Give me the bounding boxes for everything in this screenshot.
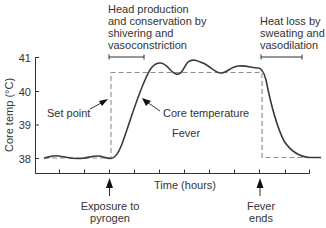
- fever-ends-label-line-2: ends: [249, 212, 273, 224]
- fever-ends-arrow: [257, 178, 264, 196]
- y-tick-39: 39: [19, 119, 31, 131]
- exposure-label-line-2: pyrogen: [90, 212, 130, 224]
- exposure-label-line-1: Exposure to: [81, 200, 140, 212]
- y-axis: [36, 57, 40, 174]
- set-point-arrow: [90, 99, 108, 109]
- heat-loss-annotation: Heat loss by sweating and vasodilation: [260, 15, 325, 60]
- heat-production-line-3: shivering and: [108, 27, 173, 39]
- heat-production-line-4: vasoconstriction: [108, 39, 187, 51]
- y-axis-title: Core temp (°C): [3, 78, 15, 152]
- heat-production-bracket: [109, 55, 144, 60]
- heat-production-annotation: Head production and conservation by shiv…: [108, 3, 207, 60]
- fever-ends-label-line-1: Fever: [247, 200, 275, 212]
- heat-loss-line-2: sweating and: [260, 27, 325, 39]
- y-tick-38: 38: [19, 153, 31, 165]
- heat-production-line-2: and conservation by: [108, 15, 207, 27]
- fever-label: Fever: [172, 127, 200, 139]
- core-temperature-arrow: [142, 98, 160, 111]
- heat-loss-bracket: [261, 55, 302, 60]
- core-temperature-label: Core temperature: [163, 107, 249, 119]
- heat-loss-line-1: Heat loss by: [260, 15, 321, 27]
- fever-chart: Head production and conservation by shiv…: [0, 0, 326, 228]
- x-axis-title: Time (hours): [154, 179, 216, 191]
- heat-loss-line-3: vasodilation: [260, 39, 318, 51]
- y-tick-41: 41: [19, 52, 31, 64]
- y-tick-40: 40: [19, 86, 31, 98]
- exposure-arrow: [106, 178, 113, 196]
- x-axis: [35, 170, 310, 174]
- set-point-label: Set point: [47, 107, 90, 119]
- heat-production-line-1: Head production: [108, 3, 189, 15]
